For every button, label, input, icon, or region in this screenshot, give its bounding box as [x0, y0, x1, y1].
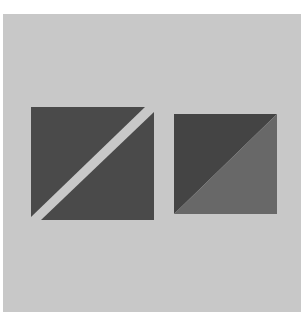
illusion-figure — [0, 0, 304, 314]
figure-panel — [3, 14, 301, 312]
right-square — [174, 114, 277, 214]
